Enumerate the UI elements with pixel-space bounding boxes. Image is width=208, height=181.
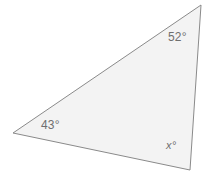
angle-label-top-right: 52° bbox=[168, 31, 187, 43]
angle-label-left: 43° bbox=[41, 119, 60, 131]
triangle-diagram-canvas: 52° 43° x° bbox=[0, 0, 208, 181]
angle-label-unknown-x: x° bbox=[166, 140, 176, 151]
triangle-graphic bbox=[0, 0, 208, 181]
